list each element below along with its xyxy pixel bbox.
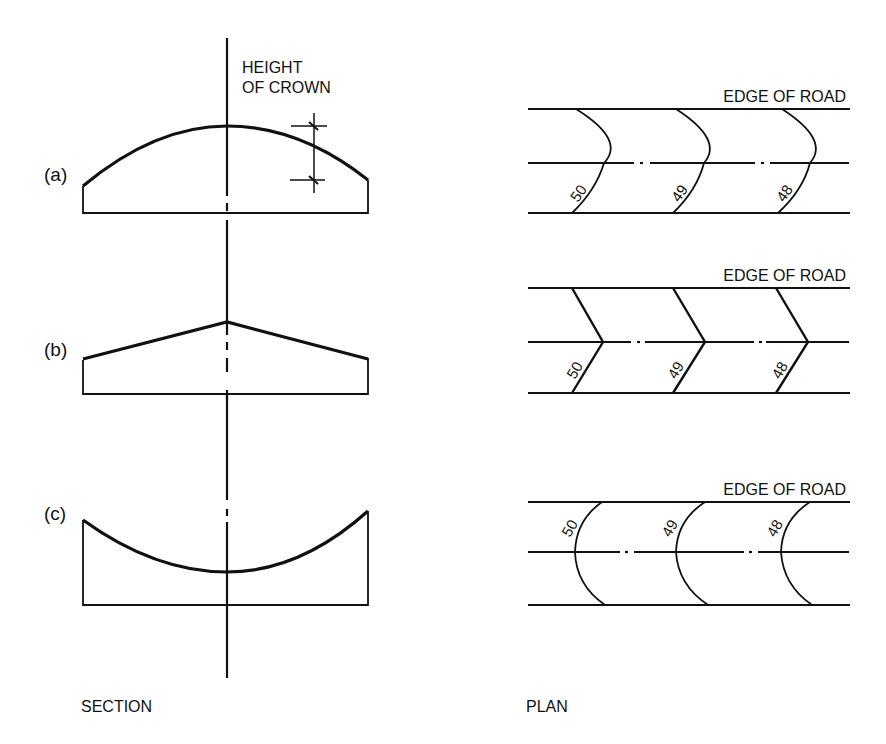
road-crown-diagram: (a) (b) (c) HEIGHT OF CROWN SECTION: [0, 0, 886, 744]
contour-label-a-49: 49: [668, 181, 691, 204]
edge-of-road-label-c: EDGE OF ROAD: [723, 481, 846, 498]
contour-c-49: [676, 502, 708, 605]
section-b-crown-line: [83, 322, 368, 359]
contour-c-48: [781, 502, 812, 605]
edge-of-road-label-b: EDGE OF ROAD: [723, 267, 846, 284]
case-label-c: (c): [44, 503, 66, 524]
section-a-base: [83, 180, 368, 213]
contour-c-50: [575, 502, 605, 605]
section-a: [83, 113, 368, 213]
section-c-base: [83, 511, 368, 605]
height-of-crown-label-line1: HEIGHT: [242, 59, 303, 76]
case-label-b: (b): [44, 339, 67, 360]
plan-c: [528, 502, 850, 605]
contour-label-b-48: 48: [768, 359, 791, 382]
section-caption: SECTION: [81, 698, 152, 715]
contour-label-a-48: 48: [773, 181, 796, 204]
contour-label-a-50: 50: [567, 181, 590, 204]
section-column: [83, 38, 368, 678]
section-a-crown-curve: [83, 126, 368, 186]
edge-of-road-label-a: EDGE OF ROAD: [723, 88, 846, 105]
section-b: [83, 322, 368, 400]
height-of-crown-label-line2: OF CROWN: [242, 79, 331, 96]
section-c-dish-curve: [83, 511, 368, 572]
plan-caption: PLAN: [526, 698, 568, 715]
case-label-a: (a): [44, 164, 67, 185]
section-b-base: [83, 358, 368, 394]
section-c: [83, 511, 368, 605]
